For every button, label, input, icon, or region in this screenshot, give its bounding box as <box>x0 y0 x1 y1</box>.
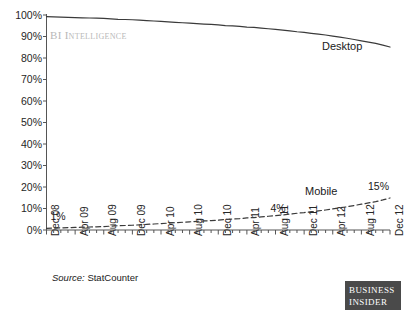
source-note: Source: StatCounter <box>52 272 138 283</box>
series-label-desktop: Desktop <box>322 41 362 52</box>
logo-line-2: INSIDER <box>349 296 401 308</box>
annotation-mobile-start-value: 1% <box>51 211 66 222</box>
logo-line-1: BUSINESS <box>349 284 401 296</box>
business-insider-logo: BUSINESS INSIDER <box>345 281 401 310</box>
series-line-mobile <box>47 198 391 228</box>
annotation-mobile-mid-value: 4% <box>271 203 286 214</box>
source-label: Source: <box>52 272 85 283</box>
bi-intelligence-watermark: BI Intelligence <box>50 29 127 41</box>
series-label-mobile: Mobile <box>305 186 337 197</box>
source-value: StatCounter <box>87 272 138 283</box>
annotation-mobile-end-value: 15% <box>368 181 389 192</box>
chart-container: 100%90%80%70%60%50%40%30%20%10%0% Dec 08… <box>0 0 415 319</box>
